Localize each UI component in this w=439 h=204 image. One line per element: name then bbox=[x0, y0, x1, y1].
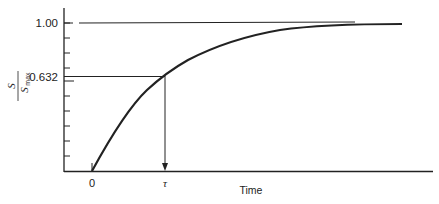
x-tick-label-tau: τ bbox=[163, 177, 168, 189]
time-constant-chart: 1.00 0.632 0 τ Time S S max bbox=[0, 0, 439, 204]
y-label-denominator: S bbox=[18, 87, 30, 93]
y-axis-label: S S max bbox=[5, 71, 31, 101]
y-tick-label-0632: 0.632 bbox=[29, 71, 58, 83]
asymptote-line bbox=[79, 22, 355, 23]
response-curve bbox=[92, 24, 402, 171]
y-ticks bbox=[64, 23, 74, 156]
x-tick-label-0: 0 bbox=[89, 177, 95, 189]
x-axis-label: Time bbox=[240, 184, 263, 196]
arrow-head-icon bbox=[162, 163, 168, 171]
y-label-subscript: max bbox=[24, 72, 31, 86]
y-tick-label-1: 1.00 bbox=[36, 17, 58, 29]
y-label-numerator: S bbox=[5, 83, 17, 89]
